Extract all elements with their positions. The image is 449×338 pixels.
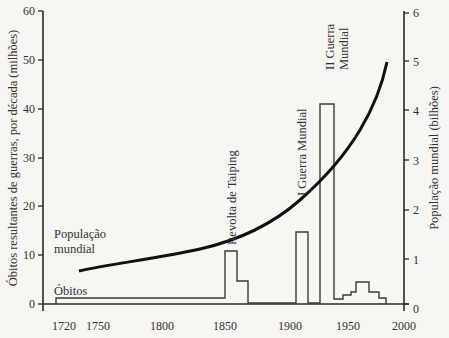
svg-text:0: 0 [29, 297, 35, 311]
svg-text:1850: 1850 [213, 319, 237, 333]
left-axis-title: Óbitos resultantes de guerras, por décad… [6, 30, 20, 287]
svg-text:20: 20 [23, 199, 35, 213]
svg-text:1750: 1750 [86, 319, 110, 333]
svg-text:2: 2 [413, 203, 419, 217]
svg-text:5: 5 [413, 55, 419, 69]
svg-text:2000: 2000 [392, 319, 416, 333]
right-axis-title: População mundial (bilhões) [427, 86, 441, 230]
svg-text:1950: 1950 [336, 319, 360, 333]
svg-text:0: 0 [413, 302, 419, 316]
deaths-steps [56, 104, 386, 304]
svg-text:1900: 1900 [278, 319, 302, 333]
right-tick-labels: 0 1 2 3 4 5 6 [413, 6, 419, 316]
svg-text:50: 50 [23, 53, 35, 67]
svg-text:Mundial: Mundial [337, 27, 351, 70]
left-tick-labels: 0 10 20 30 40 50 60 [23, 4, 35, 311]
svg-text:mundial: mundial [54, 242, 95, 256]
svg-text:4: 4 [413, 104, 419, 118]
svg-text:30: 30 [23, 151, 35, 165]
svg-text:População: População [54, 227, 106, 241]
x-tick-labels: 1720 1750 1800 1850 1900 1950 2000 [52, 319, 416, 333]
svg-text:60: 60 [23, 4, 35, 18]
svg-text:II Guerra: II Guerra [323, 23, 337, 70]
deaths-label: Óbitos [54, 284, 87, 298]
population-label: População mundial [54, 227, 106, 256]
svg-text:40: 40 [23, 102, 35, 116]
svg-text:10: 10 [23, 248, 35, 262]
svg-text:1720: 1720 [52, 319, 76, 333]
ww2-label: II Guerra Mundial [323, 23, 351, 70]
chart: 0 10 20 30 40 50 60 0 1 2 3 4 5 6 1720 1… [0, 0, 449, 338]
ww1-label: I Guerra Mundial [295, 108, 309, 196]
taiping-label: Revolta de Taiping [225, 150, 239, 245]
svg-text:1800: 1800 [150, 319, 174, 333]
svg-text:1: 1 [413, 253, 419, 267]
svg-text:3: 3 [413, 154, 419, 168]
svg-text:6: 6 [413, 6, 419, 20]
